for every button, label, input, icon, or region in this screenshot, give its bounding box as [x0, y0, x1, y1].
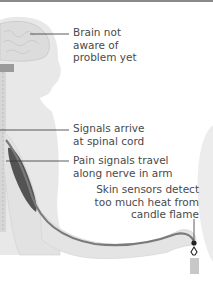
- skin-label: Skin sensors detect too much heat from c…: [95, 183, 199, 221]
- brain-label: Brain not aware of problem yet: [73, 26, 137, 64]
- spinal-label: Signals arrive at spinal cord: [73, 122, 145, 147]
- candle-icon: [190, 258, 199, 274]
- pain-reflex-diagram: Brain not aware of problem yet Signals a…: [0, 0, 213, 286]
- skin-sensor-dot: [191, 240, 196, 245]
- nerve-label: Pain signals travel along nerve in arm: [73, 154, 173, 179]
- brainstem-shape: [0, 64, 14, 72]
- adjacent-figure-shape: [198, 125, 213, 262]
- candle-flame-icon: [191, 247, 197, 255]
